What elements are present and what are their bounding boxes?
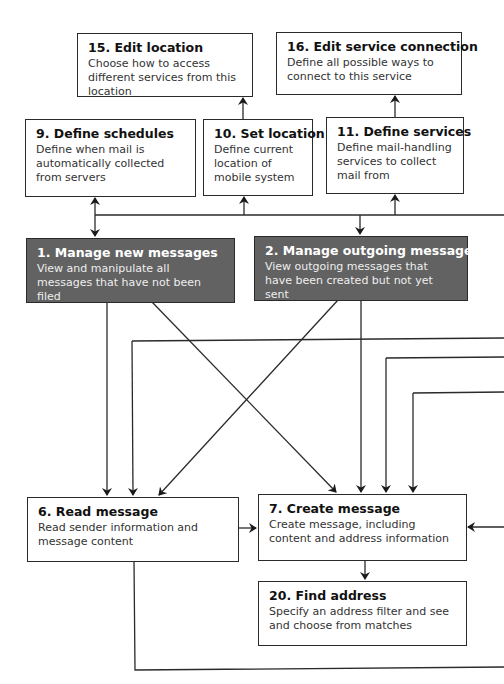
box-description: Create message, including content and ad… <box>269 518 456 546</box>
box-read-message: 6. Read message Read sender information … <box>27 497 239 562</box>
box-manage-outgoing-messages: 2. Manage outgoing messages View outgoin… <box>254 236 468 301</box>
box-title: 10. Set location <box>214 126 308 142</box>
box-edit-location: 15. Edit location Choose how to access d… <box>77 33 253 97</box>
box-title: 2. Manage outgoing messages <box>265 243 457 259</box>
box-description: View and manipulate all messages that ha… <box>37 262 224 304</box>
box-title: 1. Manage new messages <box>37 245 224 261</box>
box-title: 16. Edit service connection <box>287 39 451 55</box>
box-define-services: 11. Define services Define mail-handling… <box>326 117 464 194</box>
box-description: Read sender information and message cont… <box>38 521 228 549</box>
box-description: Specify an address filter and see and ch… <box>269 605 456 633</box>
box-title: 9. Define schedules <box>36 126 185 142</box>
box-title: 20. Find address <box>269 588 456 604</box>
box-description: Define when mail is automatically collec… <box>36 143 185 185</box>
box-find-address: 20. Find address Specify an address filt… <box>258 581 467 646</box>
box-description: View outgoing messages that have been cr… <box>265 260 457 302</box>
box-set-location: 10. Set location Define current location… <box>203 119 313 196</box>
box-edit-service-connection: 16. Edit service connection Define all p… <box>276 32 462 95</box>
box-title: 15. Edit location <box>88 40 242 56</box>
box-title: 11. Define services <box>337 124 453 140</box>
box-description: Define mail-handling services to collect… <box>337 141 453 183</box>
box-description: Define current location of mobile system <box>214 143 308 185</box>
box-description: Choose how to access different services … <box>88 57 242 99</box>
box-description: Define all possible ways to connect to t… <box>287 56 451 84</box>
box-create-message: 7. Create message Create message, includ… <box>258 494 467 561</box>
box-manage-new-messages: 1. Manage new messages View and manipula… <box>26 238 235 303</box>
box-title: 7. Create message <box>269 501 456 517</box>
box-title: 6. Read message <box>38 504 228 520</box>
box-define-schedules: 9. Define schedules Define when mail is … <box>25 119 196 197</box>
